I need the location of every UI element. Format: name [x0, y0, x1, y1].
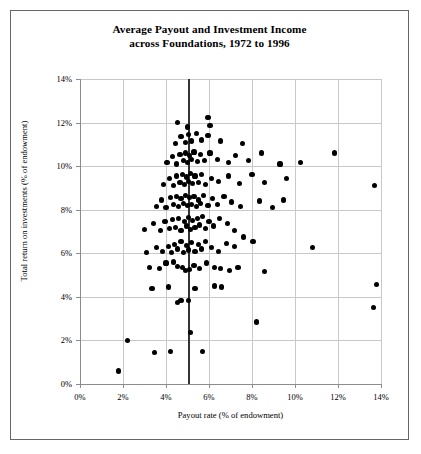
- scatter-point: [125, 338, 130, 343]
- scatter-point: [189, 138, 194, 143]
- y-axis-tick-label: 8%: [38, 205, 72, 215]
- scatter-point: [212, 265, 217, 270]
- chart-title-line-2: across Foundations, 1972 to 1996: [10, 36, 409, 50]
- scatter-point: [226, 160, 231, 165]
- scatter-point: [227, 268, 232, 273]
- scatter-point: [191, 149, 196, 154]
- scatter-point: [194, 131, 199, 136]
- scatter-point: [196, 180, 201, 185]
- scatter-point: [202, 158, 207, 163]
- scatter-point: [159, 197, 164, 202]
- scatter-point: [177, 152, 182, 157]
- chart-title: Average Payout and Investment Income acr…: [10, 22, 409, 50]
- scatter-point: [232, 244, 237, 249]
- scatter-point: [178, 134, 183, 139]
- scatter-point: [205, 203, 210, 208]
- scatter-point: [224, 241, 229, 246]
- scatter-point: [232, 228, 237, 233]
- scatter-point: [249, 172, 254, 177]
- scatter-point: [197, 266, 202, 271]
- scatter-point: [174, 173, 179, 178]
- y-axis-line: [80, 79, 81, 385]
- scatter-point: [198, 152, 203, 157]
- scatter-point: [201, 193, 206, 198]
- scatter-point: [167, 226, 172, 231]
- scatter-point: [233, 153, 238, 158]
- gridline-vertical: [338, 79, 339, 384]
- y-axis-tick-label: 0%: [38, 379, 72, 389]
- scatter-point: [246, 158, 251, 163]
- scatter-point: [229, 199, 234, 204]
- scatter-point: [199, 172, 204, 177]
- scatter-point: [216, 179, 221, 184]
- scatter-point: [374, 282, 379, 287]
- scatter-point: [240, 141, 245, 146]
- scatter-point: [168, 195, 173, 200]
- scatter-point: [192, 286, 197, 291]
- scatter-point: [144, 250, 149, 255]
- scatter-point: [152, 350, 157, 355]
- x-axis-tick-label: 2%: [108, 392, 138, 402]
- scatter-point: [195, 159, 200, 164]
- scatter-point: [207, 123, 212, 128]
- scatter-point: [175, 120, 180, 125]
- scatter-point: [241, 234, 246, 239]
- scatter-point: [173, 141, 178, 146]
- scatter-point: [190, 181, 195, 186]
- gridline-horizontal: [80, 297, 381, 298]
- scatter-point: [209, 176, 214, 181]
- y-axis-tick-label: 2%: [38, 335, 72, 345]
- gridline-vertical: [166, 79, 167, 384]
- x-axis-tick-label: 10%: [280, 392, 310, 402]
- scatter-point: [151, 221, 156, 226]
- scatter-point: [205, 115, 210, 120]
- scatter-point: [238, 204, 243, 209]
- scatter-point: [186, 132, 191, 137]
- scatter-point: [203, 239, 208, 244]
- gridline-vertical: [252, 79, 253, 384]
- scatter-point: [163, 205, 168, 210]
- scatter-point: [188, 330, 193, 335]
- plot-area: [80, 79, 381, 384]
- x-axis-tick-label: 14%: [366, 392, 396, 402]
- scatter-point: [162, 219, 167, 224]
- scatter-point: [199, 246, 204, 251]
- scatter-point: [262, 180, 267, 185]
- scatter-point: [186, 247, 191, 252]
- scatter-point: [332, 150, 337, 155]
- scatter-point: [192, 249, 197, 254]
- scatter-point: [209, 245, 214, 250]
- scatter-point: [207, 150, 212, 155]
- scatter-point: [174, 161, 179, 166]
- y-axis-tick-label: 10%: [38, 161, 72, 171]
- y-axis-tick-label: 12%: [38, 118, 72, 128]
- scatter-point: [217, 216, 222, 221]
- gridline-horizontal: [80, 253, 381, 254]
- scatter-point: [225, 221, 230, 226]
- scatter-point: [164, 160, 169, 165]
- gridline-vertical: [295, 79, 296, 384]
- scatter-point: [198, 201, 203, 206]
- scatter-point: [219, 284, 224, 289]
- x-axis-tick-label: 6%: [194, 392, 224, 402]
- scatter-point: [199, 137, 204, 142]
- scatter-point: [215, 202, 220, 207]
- scatter-point: [154, 204, 159, 209]
- scatter-point: [259, 150, 264, 155]
- x-axis-line: [80, 384, 382, 385]
- scatter-point: [277, 161, 282, 166]
- y-axis-tick-label: 14%: [38, 74, 72, 84]
- gridline-horizontal: [80, 210, 381, 211]
- scatter-point: [166, 244, 171, 249]
- scatter-point: [178, 239, 183, 244]
- scatter-point: [167, 176, 172, 181]
- scatter-point: [257, 198, 262, 203]
- scatter-point: [371, 305, 376, 310]
- scatter-point: [203, 226, 208, 231]
- scatter-point: [218, 266, 223, 271]
- scatter-point: [147, 265, 152, 270]
- scatter-point: [235, 265, 240, 270]
- scatter-point: [226, 173, 231, 178]
- gridline-horizontal: [80, 123, 381, 124]
- scatter-point: [218, 138, 223, 143]
